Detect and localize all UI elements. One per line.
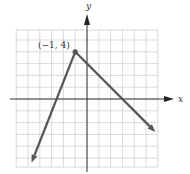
axes <box>10 14 174 172</box>
graph-lines <box>32 49 156 163</box>
y-axis-label: y <box>85 1 92 11</box>
x-axis-label: x <box>178 94 183 104</box>
graph-plot: y x (−1, 4) <box>0 0 190 174</box>
vertex-label: (−1, 4) <box>38 40 70 50</box>
